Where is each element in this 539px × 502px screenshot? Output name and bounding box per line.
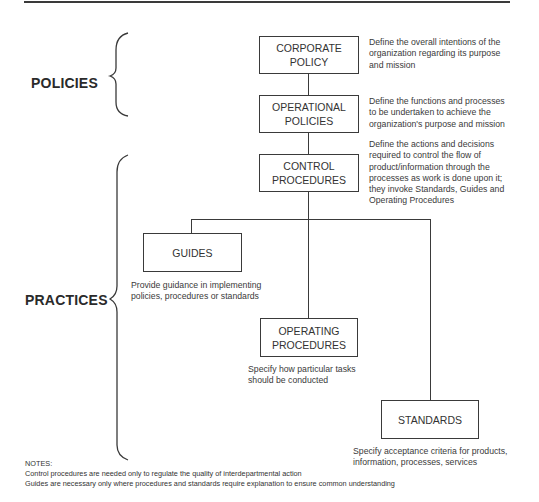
operational-policies-description: Define the functions and processes to be… <box>369 96 505 130</box>
guides-description: Provide guidance in implementing policie… <box>131 280 261 303</box>
practices-brace <box>110 155 128 460</box>
connector-operational-control <box>308 133 309 154</box>
box-label: OPERATIONAL <box>272 100 346 114</box>
box-label: OPERATING <box>272 324 346 338</box>
box-label: CONTROL <box>272 159 346 173</box>
connector-control-operating <box>308 192 309 318</box>
connector-guides <box>191 219 192 233</box>
note-item: Guides are necessary only where procedur… <box>25 479 395 489</box>
box-label: PROCEDURES <box>272 338 346 352</box>
control-procedures-description: Define the actions and decisions require… <box>369 139 504 207</box>
notes: NOTES: Control procedures are needed onl… <box>25 459 395 489</box>
operational-policies-box: OPERATIONALPOLICIES <box>259 95 359 133</box>
guides-box: GUIDES <box>143 233 242 272</box>
control-procedures-box: CONTROLPROCEDURES <box>259 154 359 192</box>
operating-procedures-description: Specify how particular tasks should be c… <box>248 364 356 387</box>
policies-brace <box>110 33 128 116</box>
standards-box: STANDARDS <box>381 400 479 439</box>
notes-heading: NOTES: <box>25 459 395 469</box>
policies-label: POLICIES <box>31 75 98 91</box>
connector-standards <box>430 219 431 400</box>
note-item: Control procedures are needed only to re… <box>25 469 395 479</box>
connector-horizontal <box>191 219 431 220</box>
operating-procedures-box: OPERATINGPROCEDURES <box>260 318 358 357</box>
box-label: GUIDES <box>172 246 212 260</box>
corporate-policy-description: Define the overall intentions of the org… <box>369 37 500 71</box>
box-label: POLICY <box>276 55 342 69</box>
connector-corporate-operational <box>308 73 309 95</box>
corporate-policy-box: CORPORATEPOLICY <box>259 36 359 74</box>
box-label: PROCEDURES <box>272 173 346 187</box>
box-label: CORPORATE <box>276 41 342 55</box>
box-label: POLICIES <box>272 114 346 128</box>
box-label: STANDARDS <box>398 413 462 427</box>
practices-label: PRACTICES <box>25 292 108 308</box>
